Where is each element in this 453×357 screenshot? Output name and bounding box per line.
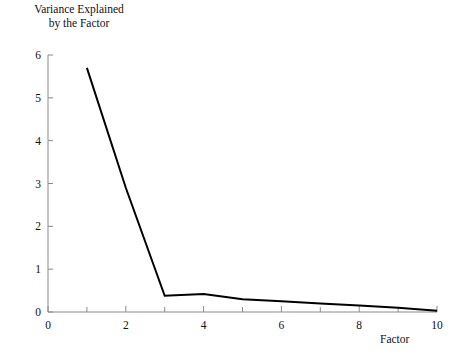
scree-data-line (87, 68, 437, 311)
y-tick-label: 3 (35, 178, 41, 190)
x-tick-label: 2 (123, 319, 129, 331)
y-axis-ticks (48, 55, 53, 312)
y-tick-label: 1 (35, 263, 41, 275)
y-axis: 0123456 (35, 49, 53, 318)
scree-plot-figure: Variance Explained by the Factor 0123456… (0, 0, 453, 357)
x-axis: 0246810 (45, 306, 443, 331)
x-axis-tick-labels: 0246810 (45, 319, 443, 331)
plot-area: 0123456 0246810 (0, 0, 453, 357)
y-tick-label: 5 (35, 92, 41, 104)
x-tick-label: 6 (279, 319, 285, 331)
y-axis-tick-labels: 0123456 (35, 49, 41, 318)
x-tick-label: 4 (201, 319, 207, 331)
y-tick-label: 0 (35, 306, 41, 318)
x-axis-label: Factor (380, 333, 409, 345)
x-tick-label: 8 (356, 319, 362, 331)
x-tick-label: 10 (431, 319, 443, 331)
x-tick-label: 0 (45, 319, 51, 331)
y-tick-label: 6 (35, 49, 41, 61)
y-tick-label: 4 (35, 135, 41, 147)
y-tick-label: 2 (35, 220, 41, 232)
